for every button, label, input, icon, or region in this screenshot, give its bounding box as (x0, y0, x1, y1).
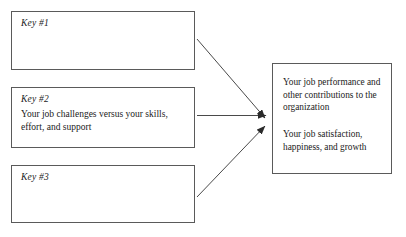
key-box-3-label: Key #3 (21, 171, 49, 183)
outcome-paragraph-satisfaction: Your job satisfaction, happiness, and gr… (283, 128, 384, 153)
key-box-1[interactable]: Key #1 (11, 11, 195, 70)
key-box-2-body: Your job challenges versus your skills, … (21, 108, 188, 134)
diagram-canvas: Key #1 Key #2 Your job challenges versus… (0, 0, 406, 237)
key-box-1-label: Key #1 (21, 17, 49, 29)
outcome-paragraph-performance: Your job performance and other contribut… (283, 76, 384, 114)
outcome-box[interactable]: Your job performance and other contribut… (272, 63, 392, 174)
key-box-2-label: Key #2 (21, 93, 49, 105)
key-box-3[interactable]: Key #3 (11, 165, 195, 223)
arrow-key3-to-outcome (197, 126, 265, 197)
key-box-2[interactable]: Key #2 Your job challenges versus your s… (11, 87, 195, 148)
arrow-key1-to-outcome (197, 39, 265, 118)
